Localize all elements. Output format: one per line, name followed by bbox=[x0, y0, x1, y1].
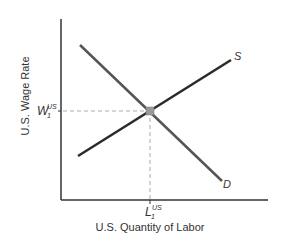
labor-market-diagram: S D W 1 US L 1 US U.S. Quantity of Labor… bbox=[0, 0, 281, 243]
equilibrium-wage-sup: US bbox=[47, 103, 57, 110]
equilibrium-wage-sub: 1 bbox=[47, 112, 51, 119]
x-axis-title: U.S. Quantity of Labor bbox=[96, 221, 205, 233]
equilibrium-point bbox=[146, 107, 154, 115]
equilibrium-quantity-sub: 1 bbox=[151, 213, 155, 220]
y-axis-title: U.S. Wage Rate bbox=[19, 56, 31, 135]
supply-curve bbox=[78, 60, 231, 156]
equilibrium-quantity-sup: US bbox=[152, 204, 162, 211]
demand-label: D bbox=[223, 178, 231, 190]
supply-label: S bbox=[234, 50, 242, 62]
